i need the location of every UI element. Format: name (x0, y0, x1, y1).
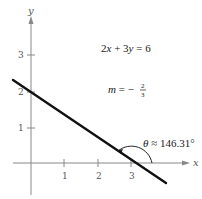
equation-label: 2x + 3y = 6 (101, 42, 151, 54)
x-tick-label-1: 1 (62, 171, 68, 181)
x-tick-label-2: 2 (96, 171, 102, 181)
slope-denominator: 3 (141, 91, 145, 99)
x-axis-label: x (193, 157, 199, 168)
slope-label: m = − (108, 83, 134, 95)
y-axis-label: y (27, 5, 34, 16)
y-axis-arrow-icon (29, 16, 34, 24)
angle-label: θ ≈ 146.31° (143, 137, 195, 149)
y-tick-label-1: 1 (18, 123, 24, 133)
x-axis-arrow-icon (182, 161, 190, 166)
x-tick-label-3: 3 (129, 171, 135, 181)
slope-numerator: 2 (141, 82, 145, 90)
coordinate-plane: 1 2 3 1 2 3 y x 2x + 3y = 6 m = − 2 3 θ … (0, 0, 202, 199)
y-tick-label-2: 2 (18, 87, 24, 97)
y-tick-label-3: 3 (18, 50, 24, 60)
